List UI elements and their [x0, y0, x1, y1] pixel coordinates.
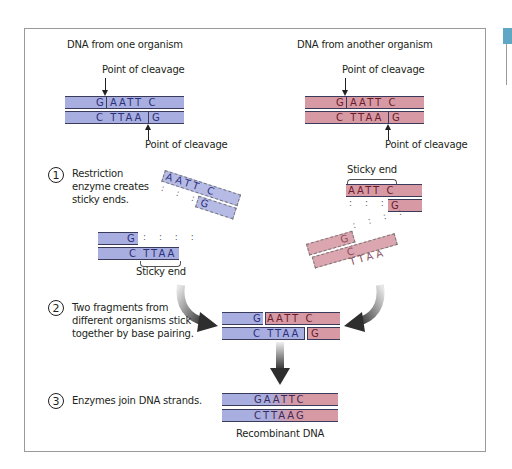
annealed-bottom-blue: C TTAA: [222, 327, 305, 340]
recombinant-bottom-seq: CTTAAG: [254, 410, 306, 421]
annealed-top-blue-seq: G: [253, 313, 263, 324]
right-curved-arrow-icon: [344, 285, 381, 332]
recombinant-top-strand: GAATTC: [222, 393, 338, 406]
annealed-dna: G AATT C C TTAA G: [222, 312, 340, 340]
step-2-line-2: different organisms stick: [72, 315, 191, 327]
down-arrow-icon: [270, 342, 290, 385]
step-3-number-icon: 3: [48, 393, 64, 409]
annealed-top-pink: AATT C: [265, 312, 340, 325]
step-2-line-3: together by base pairing.: [72, 328, 194, 340]
annealed-bottom-blue-seq: C TTAA: [253, 328, 300, 339]
step-2-line-1: Two fragments from: [72, 302, 168, 314]
annealed-top-pink-seq: AATT C: [267, 313, 314, 324]
step-3-line-1: Enzymes join DNA strands.: [72, 395, 202, 407]
recombinant-dna-label: Recombinant DNA: [236, 428, 324, 439]
annealed-bottom-pink-seq: G: [311, 328, 321, 339]
step-2-number-icon: 2: [48, 300, 64, 316]
recombinant-bottom-strand: CTTAAG: [222, 409, 338, 422]
annealed-bottom-pink: G: [307, 327, 340, 340]
annealed-top-blue: G: [222, 312, 263, 325]
recombinant-top-seq: GAATTC: [254, 394, 305, 405]
